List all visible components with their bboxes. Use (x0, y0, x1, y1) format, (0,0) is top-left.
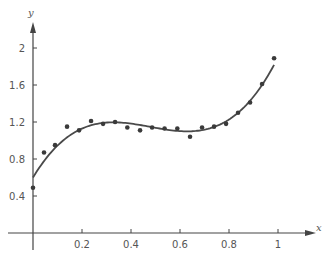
data-point (125, 125, 130, 130)
data-point (65, 124, 70, 129)
x-tick-label: 0.4 (123, 239, 139, 250)
y-tick-label: 1.2 (9, 117, 25, 128)
data-points (31, 56, 277, 190)
data-point (89, 119, 94, 124)
axes (8, 22, 316, 250)
data-point (31, 185, 36, 190)
x-tick-label: 0.8 (221, 239, 237, 250)
x-tick-label: 0.6 (172, 239, 188, 250)
y-axis-arrow-icon (30, 22, 36, 33)
data-point (272, 56, 277, 61)
data-point (175, 126, 180, 131)
chart: 0.20.40.60.810.40.81.21.62 x y (0, 0, 330, 258)
data-point (236, 110, 241, 115)
data-point (150, 125, 155, 130)
y-tick-label: 0.8 (9, 154, 25, 165)
data-point (260, 82, 265, 87)
y-tick-label: 2 (19, 43, 25, 54)
data-point (162, 126, 167, 131)
x-tick-label: 0.2 (74, 239, 90, 250)
data-point (188, 135, 193, 140)
data-point (248, 100, 253, 105)
y-tick-label: 0.4 (9, 191, 25, 202)
data-point (224, 122, 229, 127)
x-tick-label: 1 (275, 239, 281, 250)
data-point (212, 124, 217, 129)
data-point (138, 128, 143, 133)
fitted-curve (33, 65, 274, 178)
x-axis-arrow-icon (305, 230, 316, 236)
data-point (101, 122, 106, 127)
ticks: 0.20.40.60.810.40.81.21.62 (9, 43, 281, 250)
y-axis-label: y (27, 7, 34, 18)
data-point (77, 128, 82, 133)
y-tick-label: 1.6 (9, 80, 25, 91)
data-point (113, 120, 118, 125)
x-axis-label: x (316, 222, 322, 233)
data-point (42, 150, 47, 155)
data-point (200, 125, 205, 130)
data-point (53, 143, 58, 148)
